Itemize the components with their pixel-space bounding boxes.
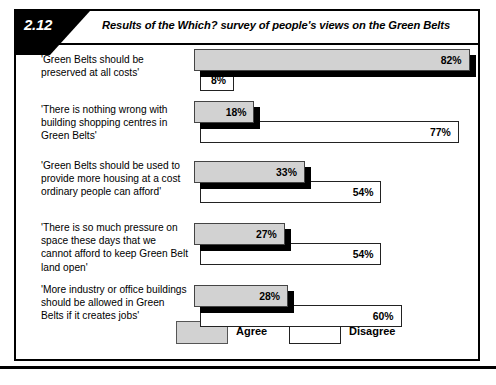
bar-value-agree: 28% xyxy=(259,291,280,302)
row-bars: 54%27% xyxy=(180,217,472,279)
row-statement: 'There is so much pressure on space thes… xyxy=(41,221,189,274)
page-baseline-rule xyxy=(0,366,496,369)
bar-disagree: 54% xyxy=(200,181,381,203)
bar-disagree: 54% xyxy=(200,243,381,265)
figure-container: 2.12 Results of the Which? survey of peo… xyxy=(14,9,480,361)
figure-header: 2.12 Results of the Which? survey of peo… xyxy=(16,11,478,43)
bar-value-disagree: 54% xyxy=(353,249,374,260)
bar-agree: 18% xyxy=(194,101,254,123)
row-statement: 'Green Belts should be preserved at all … xyxy=(41,53,189,79)
figure-number: 2.12 xyxy=(24,16,52,33)
chart-row: 'Green Belts should be preserved at all … xyxy=(16,45,478,97)
row-statement: 'Green Belts should be used to provide m… xyxy=(41,159,189,199)
bar-value-agree: 27% xyxy=(256,229,277,240)
row-bars: 77%18% xyxy=(180,97,472,155)
bar-value-agree: 82% xyxy=(441,55,462,66)
chart-rows: 'Green Belts should be preserved at all … xyxy=(16,45,478,341)
bar-disagree: 77% xyxy=(200,121,459,143)
bar-agree: 82% xyxy=(194,49,470,71)
bar-value-disagree: 77% xyxy=(430,127,451,138)
bar-value-disagree: 54% xyxy=(353,187,374,198)
row-statement: 'There is nothing wrong with building sh… xyxy=(41,103,189,143)
chart-row: 'There is so much pressure on space thes… xyxy=(16,217,478,279)
chart-row: 'Green Belts should be used to provide m… xyxy=(16,155,478,217)
chart-row: 'There is nothing wrong with building sh… xyxy=(16,97,478,155)
bar-value-agree: 33% xyxy=(276,167,297,178)
bar-agree: 28% xyxy=(194,285,288,307)
bar-disagree: 8% xyxy=(200,69,234,91)
bar-value-disagree: 60% xyxy=(373,311,394,322)
bar-value-agree: 18% xyxy=(226,107,247,118)
figure-title: Results of the Which? survey of people's… xyxy=(102,19,472,31)
row-bars: 54%33% xyxy=(180,155,472,217)
bar-disagree: 60% xyxy=(200,305,402,327)
bar-value-disagree: 8% xyxy=(211,75,226,86)
bar-agree: 33% xyxy=(194,161,305,183)
bar-agree: 27% xyxy=(194,223,285,245)
row-bars: 8%82% xyxy=(180,45,472,97)
